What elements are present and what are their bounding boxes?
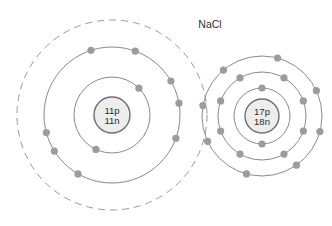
chlorine-electron (316, 128, 323, 135)
chlorine-electron (300, 127, 307, 134)
diagram-title: NaCl (198, 18, 221, 30)
sodium-electron (135, 85, 142, 92)
nacl-diagram: 11p 11n 17p 18n NaCl (0, 0, 332, 226)
chlorine-electron (243, 170, 250, 177)
sodium-electron (167, 77, 174, 84)
chlorine-electron (204, 138, 211, 145)
atomic-structure-canvas: 11p 11n 17p 18n NaCl (0, 0, 332, 226)
diagram-background (0, 0, 332, 226)
chlorine-electron (313, 87, 320, 94)
sodium-electron (172, 135, 179, 142)
chlorine-electron (300, 97, 307, 104)
chlorine-electron (293, 162, 300, 169)
chlorine-electron (258, 84, 265, 91)
chlorine-electron (258, 140, 265, 147)
sodium-electron (87, 47, 94, 54)
sodium-electron (51, 147, 58, 154)
sodium-electron (74, 170, 81, 177)
sodium-electron (175, 100, 182, 107)
chlorine-electron (217, 97, 224, 104)
sodium-electron (132, 48, 139, 55)
chlorine-electron (199, 102, 206, 109)
chlorine-electron (220, 66, 227, 73)
chlorine-electron (280, 151, 287, 158)
chlorine-neutron-label: 18n (254, 116, 270, 127)
chlorine-electron (217, 127, 224, 134)
chlorine-electron (236, 151, 243, 158)
chlorine-electron (236, 74, 243, 81)
sodium-neutron-label: 11n (104, 115, 119, 126)
chlorine-electron (274, 54, 281, 61)
chlorine-electron (280, 74, 287, 81)
sodium-electron (43, 129, 50, 136)
sodium-electron (92, 146, 99, 153)
